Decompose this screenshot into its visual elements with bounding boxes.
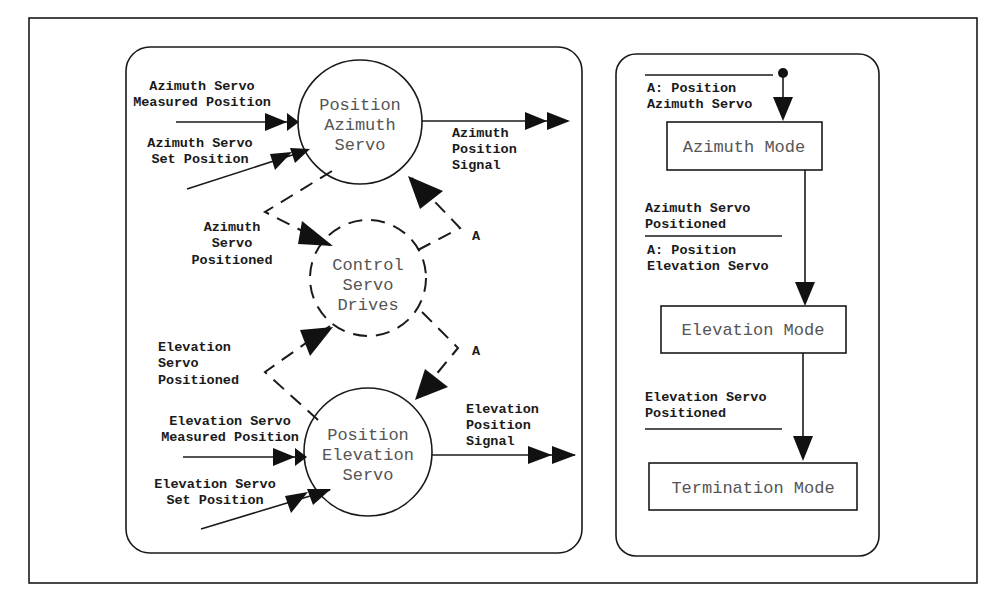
process-position-azimuth-servo[interactable]: Position Azimuth Servo — [298, 60, 422, 184]
control-flow-activate-azimuth[interactable]: A — [408, 176, 481, 250]
arrowhead-icon — [793, 436, 813, 461]
process-label: Azimuth — [324, 116, 395, 135]
flow-label: Measured Position — [133, 95, 271, 110]
action-label: A: Position — [647, 81, 736, 96]
flow-label: Elevation Servo — [169, 414, 291, 429]
transition-azimuth-to-elevation[interactable]: Azimuth Servo Positioned A: Position Ele… — [645, 170, 815, 306]
condition-label: Elevation Servo — [645, 390, 767, 405]
flow-label: Azimuth — [204, 220, 261, 235]
flow-label: Positioned — [191, 253, 272, 268]
action-label: A: Position — [647, 243, 736, 258]
state-termination-mode[interactable]: Termination Mode — [649, 463, 857, 510]
condition-label: Positioned — [645, 217, 726, 232]
activator-label: A — [472, 229, 481, 244]
flow-label: Azimuth — [452, 126, 509, 141]
double-arrowhead-icon — [285, 492, 308, 513]
flow-elevation-set-position[interactable]: Elevation Servo Set Position — [154, 477, 331, 529]
flow-label: Position — [466, 418, 531, 433]
state-azimuth-mode[interactable]: Azimuth Mode — [667, 122, 822, 170]
flow-label: Position — [452, 142, 517, 157]
control-label: Servo — [342, 276, 393, 295]
flow-label: Azimuth Servo — [149, 79, 254, 94]
flow-label: Servo — [158, 356, 199, 371]
flow-label: Elevation — [158, 340, 231, 355]
state-label: Azimuth Mode — [683, 138, 805, 157]
flow-label: Elevation — [466, 402, 539, 417]
control-label: Control — [332, 256, 403, 275]
double-arrowhead-icon — [270, 152, 292, 170]
flow-label: Positioned — [158, 373, 239, 388]
flow-label: Azimuth Servo — [147, 136, 252, 151]
flow-label: Servo — [212, 236, 253, 251]
arrowhead-icon — [415, 369, 448, 400]
double-arrowhead-icon — [273, 448, 295, 466]
process-label: Position — [319, 96, 401, 115]
condition-label: Azimuth Servo — [645, 201, 750, 216]
flow-label: Elevation Servo — [154, 477, 276, 492]
double-arrowhead-icon — [528, 446, 552, 464]
flow-elevation-position-signal[interactable]: Elevation Position Signal — [432, 402, 576, 464]
action-label: Elevation Servo — [647, 259, 769, 274]
flow-label: Signal — [466, 434, 515, 449]
process-label: Servo — [342, 466, 393, 485]
event-flow-azimuth-servo-positioned[interactable]: Azimuth Servo Positioned — [191, 171, 333, 268]
flow-label: Signal — [452, 158, 501, 173]
flow-label: Set Position — [151, 152, 248, 167]
arrowhead-icon — [795, 282, 815, 306]
double-arrowhead-icon — [287, 113, 299, 131]
process-label: Elevation — [322, 446, 414, 465]
arrowhead-icon — [298, 221, 333, 246]
flow-label: Measured Position — [161, 430, 299, 445]
control-flow-activate-elevation[interactable]: A — [415, 312, 481, 400]
flow-label: Set Position — [166, 493, 263, 508]
transition-initial[interactable]: A: Position Azimuth Servo — [645, 68, 793, 121]
action-label: Azimuth Servo — [647, 97, 752, 112]
control-process-control-servo-drives[interactable]: Control Servo Drives — [310, 220, 426, 336]
control-label: Drives — [337, 296, 398, 315]
double-arrowhead-icon — [307, 489, 331, 505]
double-arrowhead-icon — [265, 113, 287, 131]
process-position-elevation-servo[interactable]: Position Elevation Servo — [304, 388, 432, 516]
process-label: Position — [327, 426, 409, 445]
process-label: Servo — [334, 136, 385, 155]
activator-label: A — [472, 344, 481, 359]
double-arrowhead-icon — [552, 446, 576, 464]
state-label: Elevation Mode — [682, 321, 825, 340]
double-arrowhead-icon — [547, 112, 570, 130]
arrowhead-icon — [773, 97, 793, 121]
double-arrowhead-icon — [525, 112, 547, 130]
event-flow-elevation-servo-positioned[interactable]: Elevation Servo Positioned — [158, 326, 333, 420]
flow-azimuth-position-signal[interactable]: Azimuth Position Signal — [422, 112, 570, 173]
transition-elevation-to-termination[interactable]: Elevation Servo Positioned — [645, 353, 813, 461]
state-label: Termination Mode — [671, 479, 834, 498]
flow-azimuth-measured-position[interactable]: Azimuth Servo Measured Position — [133, 79, 299, 131]
arrowhead-icon — [300, 327, 333, 356]
condition-label: Positioned — [645, 406, 726, 421]
figure-canvas: Position Azimuth Servo Control Servo Dri… — [0, 0, 999, 603]
flow-azimuth-set-position[interactable]: Azimuth Servo Set Position — [147, 136, 310, 189]
state-elevation-mode[interactable]: Elevation Mode — [661, 306, 846, 353]
flow-elevation-measured-position[interactable]: Elevation Servo Measured Position — [161, 414, 307, 466]
